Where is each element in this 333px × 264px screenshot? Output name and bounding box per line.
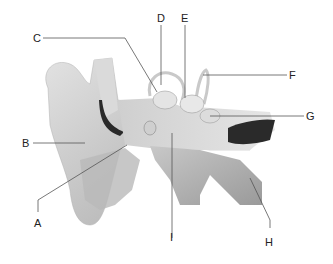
- label-b: B: [22, 138, 29, 149]
- ear-illustration: [0, 0, 333, 264]
- label-d: D: [157, 13, 165, 24]
- label-f: F: [289, 70, 296, 81]
- label-h: H: [265, 237, 273, 248]
- label-e: E: [181, 13, 188, 24]
- ear-diagram: C D E F G B A I H: [0, 0, 333, 264]
- label-c: C: [33, 33, 41, 44]
- label-i: I: [170, 232, 173, 243]
- label-g: G: [306, 111, 315, 122]
- eustachian-tube: [150, 146, 262, 205]
- label-a: A: [34, 218, 41, 229]
